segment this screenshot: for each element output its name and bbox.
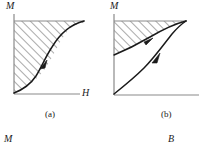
panel-a-x-axis-label: H: [82, 88, 89, 98]
panel-b: [100, 0, 199, 112]
panel-b-caption: (b): [161, 110, 172, 119]
panel-b-y-axis-label: M: [110, 1, 118, 11]
panel-a-y-axis-label: M: [6, 1, 14, 11]
panel-b-plot: [100, 0, 199, 112]
panel-a-caption: (a): [45, 110, 55, 119]
figure-container: M H M (a) (b) M B: [0, 0, 199, 150]
next-figure-left-label: M: [4, 134, 12, 144]
panel-b-hatched-region: [113, 20, 187, 58]
panel-a-hatched-region: [13, 20, 85, 95]
next-figure-right-label: B: [168, 134, 174, 144]
